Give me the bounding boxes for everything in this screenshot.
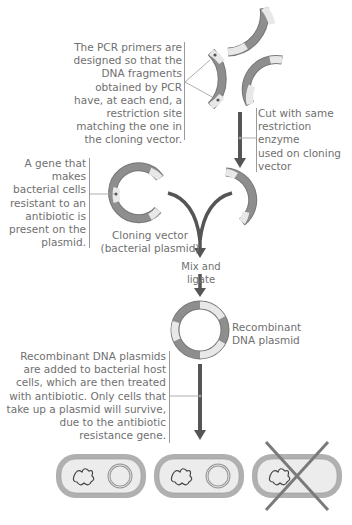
text-line: used on cloning [258, 147, 352, 160]
text-line: due to the antibiotic [2, 416, 166, 429]
bracket [256, 108, 257, 172]
text-line: (bacterial plasmid) [100, 242, 200, 255]
text-line: DNA plasmid [232, 334, 312, 347]
cloning-vector-plasmid [113, 167, 160, 219]
text-line: matching the one in [60, 120, 182, 133]
resistance-gene-label: A gene that makes bacterial cells resist… [4, 157, 86, 249]
pcr-fragment-top [228, 8, 272, 52]
text-line: Cloning vector [100, 229, 200, 242]
text-line: DNA fragments [60, 67, 182, 80]
text-line: plasmid. [4, 236, 86, 249]
cloning-vector-label: Cloning vector (bacterial plasmid) [100, 229, 200, 255]
host-cells-label: Recombinant DNA plasmids are added to ba… [2, 350, 166, 442]
text-line: present on the [4, 223, 86, 236]
text-line: take up a plasmid will survive, [2, 403, 166, 416]
text-line: Cut with same [258, 107, 352, 120]
text-line: resistance gene. [2, 429, 166, 442]
text-line: designed so that the [60, 54, 182, 67]
text-line: makes [4, 170, 86, 183]
pcr-fragment-left [211, 52, 222, 106]
pcr-primers-label: The PCR primers are designed so that the… [60, 41, 182, 147]
text-line: obtained by PCR [60, 81, 182, 94]
text-line: are added to bacterial host [2, 363, 166, 376]
text-line: cells, which are then treated [2, 376, 166, 389]
mix-ligate-label: Mix and ligate [166, 260, 236, 286]
text-line: the cloning vector. [60, 133, 182, 146]
bracket [169, 351, 170, 443]
text-line: restriction site [60, 107, 182, 120]
text-line: enzyme [258, 133, 352, 146]
cut-dna-fragment [226, 172, 253, 222]
bacterial-cell-3-dead [252, 442, 342, 510]
text-line: with antibiotic. Only cells that [2, 390, 166, 403]
text-line: antibiotic is [4, 210, 86, 223]
bracket [89, 158, 90, 248]
text-line: restriction [258, 120, 352, 133]
text-line: resistant to an [4, 197, 86, 210]
text-line: A gene that [4, 157, 86, 170]
bacterial-cell-1 [56, 454, 146, 498]
bracket [184, 42, 185, 140]
pcr-fragment-right [246, 59, 282, 104]
recombinant-plasmid-label: Recombinant DNA plasmid [232, 321, 312, 347]
bacterial-cell-2 [154, 454, 244, 498]
text-line: Recombinant [232, 321, 312, 334]
text-line: The PCR primers are [60, 41, 182, 54]
text-line: vector [258, 160, 352, 173]
text-line: have, at each end, a [60, 94, 182, 107]
text-line: Recombinant DNA plasmids [2, 350, 166, 363]
recombinant-plasmid [175, 305, 225, 355]
cut-enzyme-label: Cut with same restriction enzyme used on… [258, 107, 352, 173]
text-line: bacterial cells [4, 183, 86, 196]
